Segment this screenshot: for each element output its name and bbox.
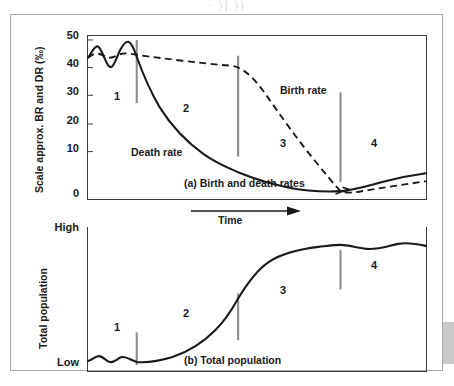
panel-a-y-axis-label: Scale approx. BR and DR (‰) [33, 47, 45, 193]
panel-b-stage-3: 3 [280, 284, 286, 296]
death-rate-label: Death rate [131, 146, 182, 158]
panel-a-stage-3: 3 [280, 137, 286, 149]
time-axis-label: Time [218, 214, 242, 226]
panel-a-svg [88, 36, 426, 199]
panel-b-svg [88, 227, 426, 371]
panel-a-stage-4: 4 [371, 137, 377, 149]
panel-a-ytick-50: 50 [51, 29, 79, 41]
panel-a-ytick-10: 10 [51, 142, 79, 154]
panel-b-stage-dividers [137, 250, 341, 365]
panel-b-plot-area: 1 2 3 4 (b) Total population [87, 227, 427, 372]
panel-a-ytick-30: 30 [51, 85, 79, 97]
birth-rate-curve [88, 53, 426, 192]
time-arrow-icon [191, 205, 301, 217]
birth-rate-label: Birth rate [280, 84, 327, 96]
panel-b-ytick-low: Low [39, 356, 79, 368]
panel-a-stage-dividers [137, 40, 341, 182]
panel-b-stage-1: 1 [114, 321, 120, 333]
death-rate-curve [88, 42, 426, 192]
panel-a-ytick-20: 20 [51, 114, 79, 126]
figure-page: · )] )) Scale approx. BR and DR (‰) 50 4… [0, 0, 454, 386]
figure-frame: Scale approx. BR and DR (‰) 50 40 30 20 … [10, 14, 443, 371]
panel-b-caption: (b) Total population [184, 354, 281, 366]
panel-a-plot-area: 1 2 3 4 Birth rate Death rate (a) Birth … [87, 35, 427, 200]
panel-b-y-axis-label: Total population [37, 268, 49, 349]
panel-b-stage-4: 4 [371, 259, 377, 271]
panel-b-stage-2: 2 [183, 307, 189, 319]
panel-a-ytick-0: 0 [51, 187, 79, 199]
top-bleed-text: · )] )) [0, 0, 454, 11]
panel-a-stage-2: 2 [183, 102, 189, 114]
panel-b-ytick-high: High [39, 221, 79, 233]
panel-a-stage-1: 1 [114, 90, 120, 102]
panel-a-ytick-40: 40 [51, 57, 79, 69]
panel-a-caption: (a) Birth and death rates [184, 177, 305, 189]
